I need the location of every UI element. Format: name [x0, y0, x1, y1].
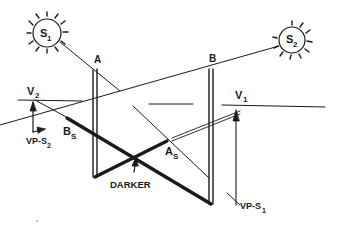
- horizon-left: [18, 100, 82, 101]
- svg-text:S: S: [71, 132, 77, 141]
- svg-text:1: 1: [262, 207, 266, 214]
- horizon-right: [222, 105, 325, 107]
- label-vp-s1: VP-S: [240, 201, 261, 211]
- label-v1: V: [235, 89, 243, 101]
- label-pole-a: A: [94, 54, 101, 65]
- pole-b: [209, 69, 213, 204]
- svg-text:S: S: [173, 152, 179, 161]
- ray-s1-tail: [227, 193, 240, 205]
- svg-text:2: 2: [293, 40, 298, 49]
- svg-text:1: 1: [47, 34, 52, 43]
- svg-text:1: 1: [243, 95, 248, 104]
- shadow-diagram: S 1 S 2 A B V 2 V 1 B S A S VP-S 2 DARKE…: [0, 0, 340, 225]
- ray-s1-shadow: [133, 106, 209, 178]
- labels: S 1 S 2 A B V 2 V 1 B S A S VP-S 2 DARKE…: [26, 27, 298, 214]
- label-darker: DARKER: [110, 179, 151, 190]
- label-vp-s2: VP-S: [26, 136, 47, 146]
- pole-a: [93, 69, 97, 177]
- svg-text:2: 2: [47, 142, 51, 149]
- v2-line: [35, 100, 68, 118]
- label-v2: V: [27, 85, 35, 97]
- ray-s1: [60, 42, 120, 91]
- label-bs: B: [63, 125, 71, 137]
- svg-text:2: 2: [35, 91, 40, 100]
- label-pole-b: B: [209, 53, 216, 64]
- sun-1-icon: [27, 12, 68, 53]
- label-as: A: [165, 145, 173, 157]
